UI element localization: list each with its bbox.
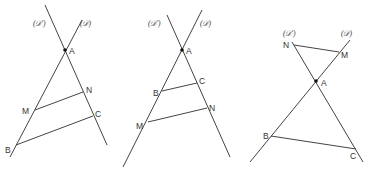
line-d (250, 40, 350, 162)
label-a: A (186, 46, 192, 56)
thales-configurations-diagram: (𝒟') (𝒟) A N M C B (𝒟') (𝒟) A C B N M (𝒟… (0, 0, 371, 178)
label-b: B (263, 131, 269, 141)
label-m: M (22, 106, 29, 116)
figure-2: (𝒟') (𝒟) A C B N M (123, 10, 230, 167)
figure-3: (𝒟') (𝒟) N M A B C (250, 29, 363, 162)
label-n: N (283, 40, 289, 50)
segment-bc (271, 136, 356, 149)
segment-mn (148, 108, 207, 122)
label-n: N (86, 85, 92, 95)
label-d-prime: (𝒟') (283, 29, 296, 38)
label-d-prime: (𝒟') (148, 19, 161, 28)
line-d (123, 10, 202, 167)
point-a-dot (180, 48, 184, 52)
line-d-prime (167, 15, 230, 157)
label-d-prime: (𝒟') (33, 19, 46, 28)
label-d: (𝒟) (341, 29, 352, 38)
label-d: (𝒟) (80, 19, 91, 28)
point-a-dot (314, 79, 318, 83)
figure-1: (𝒟') (𝒟) A N M C B (5, 5, 107, 157)
segment-bc (162, 83, 197, 91)
segment-nm (294, 45, 339, 52)
label-c: C (199, 76, 205, 86)
label-a: A (69, 46, 75, 56)
label-m: M (341, 50, 348, 60)
line-d-prime (292, 42, 363, 162)
label-c: C (95, 109, 101, 119)
line-d (10, 20, 82, 157)
label-a: A (321, 78, 327, 88)
label-n: N (209, 103, 215, 113)
line-d-prime (45, 5, 107, 145)
point-a-dot (63, 48, 67, 52)
label-c: C (350, 151, 356, 161)
label-b: B (5, 145, 11, 155)
segment-bc (16, 116, 93, 145)
label-d: (𝒟) (200, 19, 211, 28)
label-b: B (153, 88, 159, 98)
label-m: M (136, 121, 143, 131)
